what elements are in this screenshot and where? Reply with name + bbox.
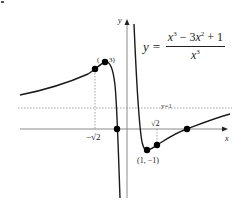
x-axis-arrow-icon [222,127,228,132]
point-local-max [102,59,108,65]
graph-figure: y x y=1 −√2 √2 (1, −1) ( 3) y = x3 − 3x2… [0,0,238,204]
point-x-intercept-left [114,126,120,132]
den-exp: 3 [196,48,200,56]
point-pos-sqrt2 [154,142,160,148]
point-neg-sqrt2 [92,66,98,72]
neg-sqrt2-label: −√2 [86,133,101,142]
pos-sqrt2-label: √2 [151,120,159,128]
formula-lhs: y = [143,39,161,55]
formula-denominator: x3 [191,47,200,63]
y-axis-label: y [118,17,122,25]
curve-left-branch [20,62,120,198]
x-axis-label: x [225,135,229,143]
point-x-intercept-right [184,126,190,132]
min-point-label: (1, −1) [137,157,159,165]
formula-fraction: x3 − 3x2 + 1 x3 [166,30,225,63]
function-formula: y = x3 − 3x2 + 1 x3 [143,30,225,63]
num-term2: − 3 [177,30,196,44]
y-axis-arrow-icon [125,19,130,25]
point-local-min [144,147,150,153]
num-term3: + 1 [204,30,223,44]
formula-numerator: x3 − 3x2 + 1 [166,30,225,47]
max-point-label-right: 3) [109,57,115,64]
asymptote-label: y=1 [161,103,172,110]
max-point-label-left: ( [97,57,99,64]
